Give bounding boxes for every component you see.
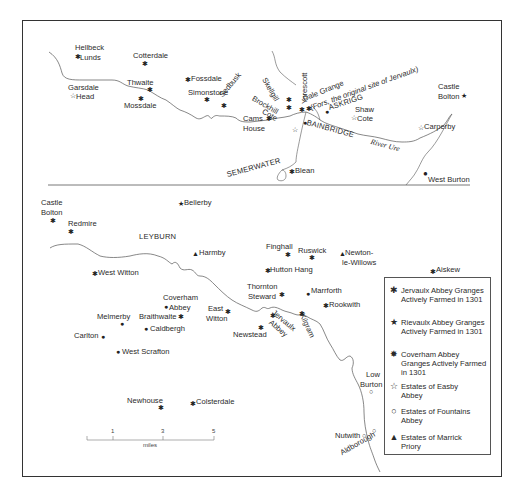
place-west-burton: West Burton (428, 175, 470, 184)
scale-unit: miles (143, 442, 157, 448)
fountains-estate-icon: ○ (369, 388, 373, 395)
place-castle-bolton-lower-line1: Castle (41, 198, 63, 207)
place-castle-bolton-upper-line2: Bolton (438, 92, 460, 101)
jervaux-grange-icon: ✱ (204, 96, 210, 103)
jervaux-grange-icon: ✱ (286, 104, 292, 111)
jervaux-grange-icon: ✱ (279, 291, 285, 298)
place-cams-house-line1: Cams (243, 114, 263, 123)
scale-bar (87, 436, 214, 440)
place-hellbeck-lunds-line2: Lunds (80, 53, 101, 62)
jervaux-grange-icon: ✱ (389, 286, 399, 295)
place-cotterdale: Cotterdale (133, 51, 168, 60)
jervaux-grange-icon: ✱ (309, 254, 315, 261)
semerwater-lake (277, 170, 286, 181)
coverham-grange-icon: ● (306, 290, 310, 297)
place-bellerby: Bellerby (184, 198, 211, 207)
jervaux-grange-icon: ✱ (68, 228, 74, 235)
rievaulx-grange-icon: ★ (461, 92, 467, 99)
place-garsdale-head-line2: Head (76, 92, 94, 101)
place-aiskew: Aiskew (436, 265, 460, 274)
place-finghall: Finghall (266, 242, 293, 251)
scale-tick-1: 1 (111, 428, 114, 434)
place-colsterdale: Colsterdale (196, 397, 234, 406)
place-garsdale-head-line1: Garsdale (68, 83, 99, 92)
place-coverham-abbey-line2: Abbey (169, 303, 191, 312)
scale-tick-5: 5 (212, 428, 215, 434)
marrick-estate-icon: ▲ (389, 433, 399, 442)
place-newton-le-willows-line2: le-Willows (342, 258, 376, 267)
place-rookwith: Rookwith (329, 300, 360, 309)
jervaux-grange-icon: ✱ (158, 404, 164, 411)
place-redmire: Redmire (68, 219, 97, 228)
fountains-estate-icon: ○ (389, 407, 399, 416)
place-braithwaite: Braithwaite (139, 312, 177, 321)
place-harmby: Harmby (199, 248, 226, 257)
jervaux-grange-icon: ✱ (285, 251, 291, 258)
place-marrforth: Marrforth (311, 286, 342, 295)
place-carperby: Carperby (424, 122, 455, 131)
place-melmerby: Melmerby (97, 312, 130, 321)
jervaux-grange-icon: ✱ (299, 106, 305, 113)
easby-estate-icon: ☆ (292, 126, 298, 133)
legend-item-jervaulx: ✱ Jervaulx Abbey Granges Actively Farmed… (389, 286, 489, 314)
place-caldbergh: Caldbergh (150, 324, 185, 333)
coverham-grange-icon: ● (101, 333, 105, 340)
place-carlton: Carlton (74, 331, 98, 340)
place-leyburn: LEYBURN (139, 232, 176, 241)
map-figure: ✱ Hellbeck Lunds Cotterdale ✱ Garsdale ☆… (0, 0, 522, 498)
place-east-witton-line2: Witton (206, 314, 228, 323)
place-newstead: Newstead (233, 330, 267, 339)
place-hellbeck-lunds-line1: Hellbeck (75, 43, 104, 52)
place-fossdale: Fossdale (191, 74, 222, 83)
place-hutton-hang: Hutton Hang (270, 265, 313, 274)
place-newton-le-willows-line1: Newton- (345, 248, 373, 257)
place-west-scrafton: West Scrafton (122, 347, 170, 356)
place-thornton-steward-line2: Steward (248, 292, 276, 301)
jervaux-grange-icon: ✱ (221, 102, 227, 109)
jervaux-grange-icon: ✱ (266, 115, 272, 122)
legend-item-coverham: ✸ Coverham Abbey Granges Actively Farmed… (389, 350, 489, 378)
place-cams-house-line2: House (243, 124, 265, 133)
jervaux-grange-icon: ✱ (286, 96, 292, 103)
coverham-grange-icon: ● (120, 320, 124, 327)
place-shaw-cote-line2: Cote (357, 114, 373, 123)
river-ure-lower (50, 244, 380, 472)
place-castle-bolton-upper-line1: Castle (438, 82, 460, 91)
jervaux-grange-icon: ✱ (147, 86, 153, 93)
legend-item-fountains: ○ Estates of Fountains Abbey (389, 407, 489, 427)
legend-item-rievaulx: ★ Rievaulx Abbey Granges Actively Farmed… (389, 318, 489, 346)
easby-estate-icon: ☆ (389, 382, 399, 391)
place-thornton-steward-line1: Thornton (247, 282, 277, 291)
legend-item-easby: ☆ Estates of Easby Abbey (389, 382, 489, 402)
map-legend: ✱ Jervaulx Abbey Granges Actively Farmed… (384, 277, 491, 455)
place-low-burton-line1: Low (366, 370, 380, 379)
place-west-witton: West Witton (98, 268, 139, 277)
coverham-grange-icon: ● (116, 348, 120, 355)
place-east-witton-line1: East (208, 304, 223, 313)
marrick-estate-icon: ▲ (192, 250, 199, 257)
jervaux-grange-icon: ✱ (178, 313, 184, 320)
coverham-grange-icon: ● (164, 303, 168, 310)
coverham-grange-icon: ● (144, 325, 148, 332)
place-coverham-abbey-line1: Coverham (163, 293, 198, 302)
jervaux-grange-icon: ✱ (50, 217, 56, 224)
scale-tick-3: 3 (161, 428, 164, 434)
rievaulx-grange-icon: ★ (389, 318, 399, 327)
place-shaw-cote-line1: Shaw (355, 105, 374, 114)
place-blean: Blean (295, 166, 314, 175)
legend-item-marrick: ▲ Estates of Marrick Priory (389, 433, 489, 453)
place-mossdale: Mossdale (124, 101, 157, 110)
place-castle-bolton-lower-line2: Bolton (41, 208, 63, 217)
coverham-grange-icon: ✸ (389, 350, 399, 359)
jervaux-grange-icon: ✱ (142, 60, 148, 67)
tributary-north (272, 51, 296, 85)
